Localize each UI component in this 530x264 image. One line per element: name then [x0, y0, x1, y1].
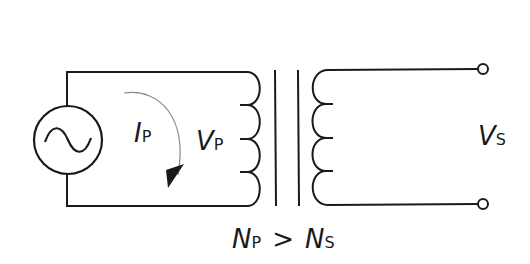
current-label-main: I — [134, 118, 142, 148]
secondary-bottom-wire — [328, 204, 478, 205]
turns-secondary-main: N — [305, 224, 324, 254]
current-label: IP — [134, 118, 151, 148]
current-arrow-icon — [124, 92, 184, 188]
secondary-top-wire — [328, 69, 478, 70]
primary-bottom-wire — [67, 174, 247, 206]
transformer-core — [275, 70, 299, 206]
secondary-voltage-label: VS — [478, 121, 506, 151]
turns-ratio-label: NP > NS — [232, 224, 335, 254]
current-label-sub: P — [142, 127, 152, 146]
turns-operator: > — [272, 224, 294, 254]
ac-source-icon — [34, 106, 102, 174]
primary-voltage-label: VP — [196, 126, 223, 156]
primary-top-wire — [67, 72, 247, 106]
secondary-voltage-sub: S — [496, 130, 506, 149]
turns-secondary-sub: S — [325, 233, 335, 252]
primary-voltage-sub: P — [214, 135, 224, 154]
secondary-voltage-main: V — [478, 121, 496, 151]
primary-voltage-main: V — [196, 126, 214, 156]
turns-primary-sub: P — [251, 233, 261, 252]
primary-coil — [240, 72, 260, 206]
secondary-coil — [313, 70, 334, 205]
terminal-bottom-icon — [478, 199, 488, 209]
terminal-top-icon — [478, 64, 488, 74]
turns-primary-main: N — [232, 224, 251, 254]
secondary-circuit — [328, 69, 478, 205]
